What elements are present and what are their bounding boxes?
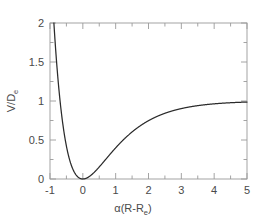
y-tick-label: 1	[38, 95, 44, 107]
y-tick-label: 0.5	[29, 134, 44, 146]
x-axis-title: α(R-Re)	[114, 202, 151, 217]
x-tick-label: 0	[80, 184, 86, 196]
morse-potential-figure: -1 0 1 2 3 4 5 0 0.5 1 1.5 2 α(R-Re) V/D…	[0, 0, 262, 223]
y-tick-label: 1.5	[29, 56, 44, 68]
y-axis-title: V/De	[5, 90, 20, 113]
y-tick-labels: 0 0.5 1 1.5 2	[29, 17, 44, 185]
x-axis-top-major-ticks	[50, 23, 247, 29]
x-tick-labels: -1 0 1 2 3 4 5	[45, 184, 250, 196]
x-tick-label: -1	[45, 184, 55, 196]
chart-canvas: -1 0 1 2 3 4 5 0 0.5 1 1.5 2 α(R-Re) V/D…	[0, 0, 262, 223]
y-axis-title-main: V/D	[5, 94, 17, 112]
plot-frame	[50, 23, 247, 179]
x-axis-title-close: )	[148, 202, 152, 214]
x-tick-label: 2	[145, 184, 151, 196]
x-tick-label: 1	[113, 184, 119, 196]
x-tick-label: 5	[244, 184, 250, 196]
svg-text:V/De: V/De	[5, 90, 20, 113]
svg-text:α(R-Re): α(R-Re)	[114, 202, 151, 217]
y-tick-label: 0	[38, 173, 44, 185]
y-tick-label: 2	[38, 17, 44, 29]
x-axis-title-main: α(R-R	[114, 202, 144, 214]
morse-potential-curve	[54, 23, 247, 179]
x-tick-label: 4	[211, 184, 217, 196]
x-tick-label: 3	[178, 184, 184, 196]
y-axis-title-subscript: e	[11, 90, 20, 94]
y-axis-right-major-ticks	[241, 23, 247, 179]
